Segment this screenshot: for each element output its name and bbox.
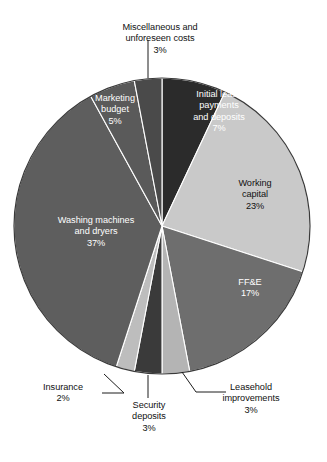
callout-percent: 3% (203, 405, 299, 416)
callout-line1: Miscellaneous and (122, 22, 197, 32)
callout-security-deposits: Security deposits 3% (112, 400, 186, 434)
leader-line-insurance (104, 374, 124, 393)
callout-percent: 2% (26, 393, 100, 404)
callout-line2: deposits (132, 411, 166, 421)
callout-line1: Leasehold (230, 382, 272, 392)
callout-line2: unforeseen costs (125, 33, 194, 43)
callout-line1: Insurance (43, 382, 83, 392)
callout-miscellaneous-and-unforeseen-costs: Miscellaneous and unforeseen costs 3% (99, 22, 221, 56)
callout-percent: 3% (112, 423, 186, 434)
callout-insurance: Insurance 2% (26, 382, 100, 405)
pie-slices-group (14, 78, 310, 374)
callout-leasehold-improvements: Leasehold improvements 3% (203, 382, 299, 416)
callout-line2: improvements (222, 393, 279, 403)
leader-line-leasehold-diagonal (182, 372, 196, 392)
callout-line1: Security (133, 400, 166, 410)
callout-percent: 3% (99, 45, 221, 56)
pie-chart: Initial lease payments and deposits 7% W… (0, 0, 327, 462)
